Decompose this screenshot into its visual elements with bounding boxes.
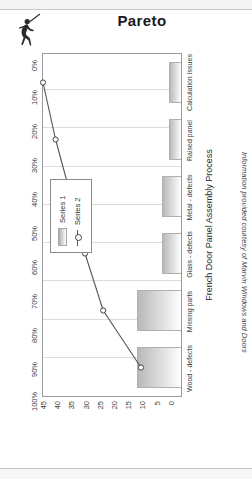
category-label: Calculation Issues <box>186 53 193 112</box>
percent-tick: 0% <box>30 45 39 71</box>
count-tick: 40 <box>53 401 62 423</box>
legend-label: Series 2 <box>73 197 82 225</box>
count-tick: 25 <box>96 401 105 423</box>
percent-tick: 50% <box>30 215 39 241</box>
percent-tick: 40% <box>30 181 39 207</box>
percent-tick: 20% <box>30 113 39 139</box>
category-label: Raised panel <box>186 112 193 169</box>
percent-tick: 70% <box>30 283 39 309</box>
count-tick: 20 <box>110 401 119 423</box>
legend-entry-series-1: Series 1 <box>55 186 70 246</box>
count-tick: 45 <box>39 401 48 423</box>
count-tick: 35 <box>67 401 76 423</box>
category-label: Metal - defects <box>186 169 193 226</box>
legend-entry-series-2: Series 2 <box>70 186 85 246</box>
line-marker-icon <box>73 230 82 246</box>
percent-tick: 100% <box>30 385 39 411</box>
chart-legend: Series 1 Series 2 <box>50 179 92 253</box>
x-axis-title: French Door Panel Assembly Process <box>204 119 214 331</box>
count-tick: 5 <box>153 401 162 423</box>
percent-tick: 90% <box>30 351 39 377</box>
percent-tick: 60% <box>30 249 39 275</box>
pareto-chart: 45 40 35 30 25 20 15 10 5 0 100% 90% 80%… <box>28 37 224 441</box>
percent-tick: 80% <box>30 317 39 343</box>
legend-label: Series 1 <box>58 195 67 223</box>
bar-swatch-icon <box>58 228 67 246</box>
category-label: Glass - defects <box>186 226 193 283</box>
count-tick: 10 <box>138 401 147 423</box>
percent-tick: 30% <box>30 147 39 173</box>
count-tick: 0 <box>167 401 176 423</box>
category-label: Missing parts <box>186 283 193 340</box>
count-tick: 15 <box>124 401 133 423</box>
count-tick: 30 <box>82 401 91 423</box>
category-label: Wood - defects <box>186 340 193 397</box>
footnote: Information provided courtesy of Marvin … <box>240 152 249 353</box>
percent-tick: 10% <box>30 79 39 105</box>
